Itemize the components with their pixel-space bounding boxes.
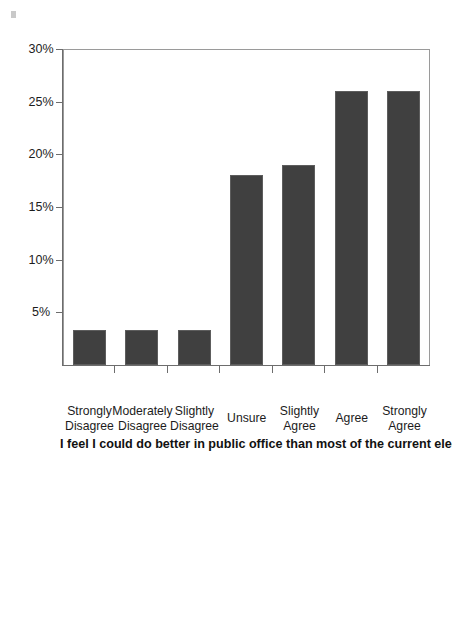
category-tick — [219, 366, 220, 373]
category-axis-title: I feel I could do better in public offic… — [60, 437, 430, 451]
bar-slightly-disagree — [178, 330, 211, 365]
category-label-strongly-disagree: StronglyDisagree — [44, 404, 136, 433]
value-tick-label: 20% — [19, 147, 63, 161]
scan-artifact-speck — [11, 11, 16, 18]
category-tick — [114, 366, 115, 373]
value-tick-label: 15% — [19, 200, 63, 214]
value-tick-label: 10% — [19, 253, 63, 267]
category-tick — [377, 366, 378, 373]
bar-strongly-disagree — [73, 330, 106, 365]
value-tick-label: 30% — [19, 42, 63, 56]
category-label-line: Strongly — [44, 404, 136, 419]
category-tick — [167, 366, 168, 373]
value-tick-label: 25% — [19, 95, 63, 109]
category-tick — [324, 366, 325, 373]
bar-agree — [335, 91, 368, 365]
bar-slightly-agree — [282, 165, 315, 365]
value-axis-line — [62, 365, 430, 366]
bar-unsure — [230, 175, 263, 365]
value-tick-label: 5% — [19, 305, 63, 319]
bar-moderately-disagree — [125, 330, 158, 365]
figure-3-6-vfp-efficacy: Figure 3.6 VFP Efficacy 5%10%15%20%25%30… — [0, 0, 452, 640]
rotated-page: Figure 3.6 VFP Efficacy 5%10%15%20%25%30… — [0, 0, 452, 640]
bar-strongly-agree — [387, 91, 420, 365]
category-label-line: Disagree — [44, 418, 136, 433]
category-tick — [272, 366, 273, 373]
